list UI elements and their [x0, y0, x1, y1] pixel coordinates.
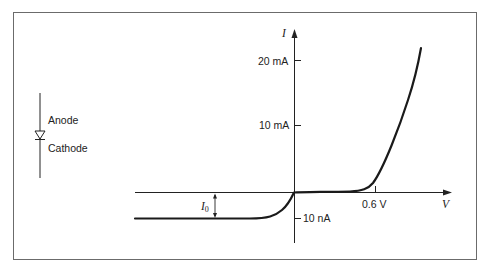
saturation-current-label: I0	[201, 200, 209, 216]
y-axis-label: I	[282, 27, 286, 39]
tick-label-10na: 10 nA	[303, 212, 330, 224]
tick-label-0-6v: 0.6 V	[362, 198, 387, 210]
saturation-current-dimension	[213, 194, 217, 219]
x-axis-label: V	[442, 198, 449, 210]
tick-label-20ma: 20 mA	[258, 55, 288, 67]
y-axis-arrow-icon	[292, 29, 298, 38]
y-axis	[292, 29, 302, 243]
diode-symbol-icon	[35, 93, 45, 178]
anode-label: Anode	[48, 114, 78, 126]
tick-label-10ma: 10 mA	[259, 119, 289, 131]
iv-plot	[0, 0, 493, 272]
cathode-label: Cathode	[48, 142, 88, 154]
x-axis-arrow-icon	[443, 190, 452, 196]
saturation-current-subscript: 0	[205, 205, 209, 214]
